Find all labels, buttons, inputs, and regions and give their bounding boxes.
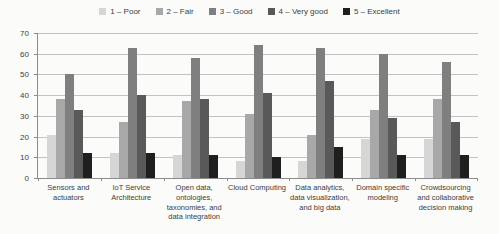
bar-2-series-2 xyxy=(119,122,128,178)
x-category-label-2: IoT Service Architecture xyxy=(100,183,163,222)
bar-3-series-2 xyxy=(182,101,191,178)
y-tick-mark xyxy=(34,95,37,96)
bar-6-series-4 xyxy=(388,118,397,178)
y-tick-label-50: 50 xyxy=(20,70,29,79)
legend-swatch-icon xyxy=(268,8,275,15)
bar-6-series-3 xyxy=(379,54,388,178)
bar-group-2 xyxy=(101,33,164,178)
bar-1-series-3 xyxy=(65,74,74,178)
bar-1-series-4 xyxy=(74,110,83,178)
legend-label: 1 – Poor xyxy=(110,7,140,16)
bar-3-series-4 xyxy=(200,99,209,178)
legend-swatch-icon xyxy=(343,8,350,15)
y-tick-label-60: 60 xyxy=(20,49,29,58)
x-tick-mark xyxy=(227,178,228,181)
x-tick-mark xyxy=(101,178,102,181)
y-tick-label-40: 40 xyxy=(20,91,29,100)
bar-groups xyxy=(38,33,478,178)
bar-group-3 xyxy=(164,33,227,178)
legend-item-3: 3 – Good xyxy=(209,7,253,16)
y-tick-mark xyxy=(34,157,37,158)
bar-2-series-4 xyxy=(137,95,146,178)
bar-5-series-4 xyxy=(325,81,334,178)
legend-label: 3 – Good xyxy=(220,7,253,16)
bar-4-series-4 xyxy=(263,93,272,178)
bar-2-series-5 xyxy=(146,153,155,178)
y-tick-mark xyxy=(34,116,37,117)
y-tick-label-30: 30 xyxy=(20,111,29,120)
bar-7-series-2 xyxy=(433,99,442,178)
x-tick-mark xyxy=(352,178,353,181)
bar-5-series-1 xyxy=(298,161,307,178)
x-axis-labels: Sensors and actuatorsIoT Service Archite… xyxy=(37,183,477,222)
y-tick-label-0: 0 xyxy=(25,174,29,183)
y-tick-label-70: 70 xyxy=(20,29,29,38)
legend-item-5: 5 – Excellent xyxy=(343,7,400,16)
legend-label: 4 – Very good xyxy=(279,7,328,16)
bar-6-series-1 xyxy=(361,139,370,178)
bar-6-series-2 xyxy=(370,110,379,178)
x-tick-mark xyxy=(38,178,39,181)
bar-group-5 xyxy=(289,33,352,178)
bar-3-series-1 xyxy=(173,155,182,178)
bar-4-series-2 xyxy=(245,114,254,178)
y-tick-label-20: 20 xyxy=(20,132,29,141)
y-tick-mark xyxy=(34,33,37,34)
bar-7-series-1 xyxy=(424,139,433,178)
x-category-label-5: Data analytics, data visualization, and … xyxy=(288,183,351,222)
y-tick-mark xyxy=(34,54,37,55)
legend-item-4: 4 – Very good xyxy=(268,7,328,16)
legend-swatch-icon xyxy=(156,8,163,15)
bar-1-series-2 xyxy=(56,99,65,178)
bar-5-series-2 xyxy=(307,135,316,179)
plot-area xyxy=(37,33,478,179)
x-tick-mark xyxy=(415,178,416,181)
bar-4-series-3 xyxy=(254,45,263,178)
y-tick-mark xyxy=(34,178,37,179)
bar-4-series-1 xyxy=(236,161,245,178)
bar-group-1 xyxy=(38,33,101,178)
legend-item-1: 1 – Poor xyxy=(99,7,140,16)
legend-swatch-icon xyxy=(99,8,106,15)
legend-label: 2 – Fair xyxy=(167,7,194,16)
bar-1-series-1 xyxy=(47,135,56,179)
bar-group-7 xyxy=(415,33,478,178)
y-tick-mark xyxy=(34,74,37,75)
bar-5-series-3 xyxy=(316,48,325,179)
legend-label: 5 – Excellent xyxy=(354,7,400,16)
bar-3-series-3 xyxy=(191,58,200,178)
x-tick-mark xyxy=(477,178,478,181)
chart-legend: 1 – Poor2 – Fair3 – Good4 – Very good5 –… xyxy=(0,7,499,16)
x-tick-mark xyxy=(164,178,165,181)
x-tick-mark xyxy=(289,178,290,181)
bar-group-6 xyxy=(352,33,415,178)
bar-5-series-5 xyxy=(334,147,343,178)
bar-7-series-5 xyxy=(460,155,469,178)
legend-item-2: 2 – Fair xyxy=(156,7,194,16)
legend-swatch-icon xyxy=(209,8,216,15)
y-tick-mark xyxy=(34,137,37,138)
bar-7-series-3 xyxy=(442,62,451,178)
bar-2-series-1 xyxy=(110,153,119,178)
bar-6-series-5 xyxy=(397,155,406,178)
x-category-label-4: Cloud Computing xyxy=(226,183,289,222)
x-category-label-3: Open data, ontologies, taxonomies, and d… xyxy=(163,183,226,222)
x-category-label-1: Sensors and actuators xyxy=(37,183,100,222)
y-tick-label-10: 10 xyxy=(20,153,29,162)
bar-1-series-5 xyxy=(83,153,92,178)
x-category-label-7: Crowdsourcing and collaborative decision… xyxy=(414,183,477,222)
bar-3-series-5 xyxy=(209,155,218,178)
bar-4-series-5 xyxy=(272,157,281,178)
y-axis: 010203040506070 xyxy=(0,33,34,178)
x-category-label-6: Domain specific modeling xyxy=(351,183,414,222)
bar-group-4 xyxy=(227,33,290,178)
bar-chart: 1 – Poor2 – Fair3 – Good4 – Very good5 –… xyxy=(0,0,499,234)
bar-7-series-4 xyxy=(451,122,460,178)
bar-2-series-3 xyxy=(128,48,137,179)
